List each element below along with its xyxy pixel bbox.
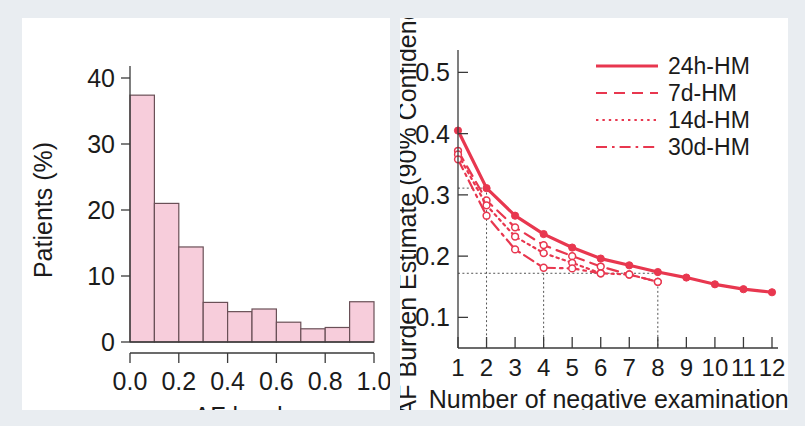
line-chart-x-tick-labels: 123456789101112 — [451, 354, 785, 381]
line-chart-x-tick-label: 11 — [731, 354, 756, 381]
figure-root: 0.00.20.40.60.81.0 010203040 AF burden P… — [0, 0, 805, 426]
histogram-bar — [228, 312, 252, 342]
series-marker-14d-hm — [654, 278, 661, 285]
histogram-bar — [325, 327, 349, 342]
histogram-x-tick-labels: 0.00.20.40.60.81.0 — [113, 367, 390, 395]
series-marker-14d-hm — [540, 250, 547, 257]
histogram-bar — [350, 302, 374, 342]
histogram-bar — [252, 309, 276, 342]
histogram-x-tick-label: 0.2 — [161, 367, 196, 395]
histogram-y-tick-label: 30 — [87, 130, 115, 158]
line-chart-x-tick-label: 2 — [480, 354, 493, 381]
histogram-y-axis-label: Patients (%) — [29, 142, 57, 278]
chart-legend: 24h-HM7d-HM14d-HM30d-HM — [596, 53, 750, 160]
series-marker-30d-hm — [540, 264, 547, 271]
series-marker-24h-hm — [768, 289, 775, 296]
histogram-x-axis-label: AF burden — [194, 402, 311, 410]
legend-label-7d-hm: 7d-HM — [668, 80, 737, 106]
histogram-bar — [203, 302, 227, 342]
legend-label-30d-hm: 30d-HM — [668, 134, 750, 160]
series-marker-30d-hm — [569, 265, 576, 272]
histogram-x-tick-label: 0.8 — [308, 367, 343, 395]
histogram-x-tick-label: 0.6 — [259, 367, 294, 395]
line-chart-panel: 123456789101112 0.10.20.30.40.5 24h-HM7d… — [400, 18, 788, 410]
series-marker-30d-hm — [597, 270, 604, 277]
histogram-svg: 0.00.20.40.60.81.0 010203040 AF burden P… — [22, 18, 390, 410]
legend-label-14d-hm: 14d-HM — [668, 107, 750, 133]
series-marker-24h-hm — [711, 281, 718, 288]
series-marker-14d-hm — [626, 271, 633, 278]
histogram-panel: 0.00.20.40.60.81.0 010203040 AF burden P… — [22, 18, 390, 410]
series-marker-7d-hm — [569, 253, 576, 260]
histogram-bars — [130, 95, 374, 342]
series-marker-24h-hm — [683, 274, 690, 281]
line-chart-x-axis-label: Number of negative examinations — [429, 385, 788, 410]
histogram-x-tick-label: 0.4 — [210, 367, 245, 395]
histogram-y-tick-label: 40 — [87, 64, 115, 92]
line-chart-y-axis-label: AF Burden Estimate (90% Confidence) — [400, 18, 421, 410]
histogram-bar — [130, 95, 154, 342]
line-chart-x-tick-label: 4 — [537, 354, 550, 381]
histogram-x-tick-label: 1.0 — [357, 367, 390, 395]
line-chart-x-tick-label: 5 — [566, 354, 579, 381]
series-marker-30d-hm — [483, 212, 490, 219]
line-chart-x-tick-label: 1 — [451, 354, 464, 381]
line-chart-x-tick-label: 3 — [508, 354, 521, 381]
series-marker-24h-hm — [540, 230, 547, 237]
line-chart-x-tick-label: 10 — [702, 354, 729, 381]
histogram-bar — [154, 203, 178, 342]
series-marker-14d-hm — [512, 233, 519, 240]
series-marker-24h-hm — [511, 212, 518, 219]
line-chart-x-tick-label: 6 — [594, 354, 607, 381]
histogram-bar — [301, 329, 325, 342]
line-chart-x-tick-label: 9 — [680, 354, 693, 381]
histogram-y-tick-labels: 010203040 — [87, 64, 115, 356]
series-marker-7d-hm — [540, 242, 547, 249]
line-chart-x-tick-label: 12 — [759, 354, 786, 381]
series-marker-7d-hm — [597, 263, 604, 270]
histogram-bar — [276, 322, 300, 342]
series-marker-24h-hm — [483, 185, 490, 192]
line-chart-x-tick-label: 8 — [651, 354, 664, 381]
histogram-y-tick-label: 0 — [101, 328, 115, 356]
histogram-bar — [179, 247, 203, 342]
series-marker-24h-hm — [654, 268, 661, 275]
histogram-y-tick-label: 20 — [87, 196, 115, 224]
series-marker-30d-hm — [512, 246, 519, 253]
legend-label-24h-hm: 24h-HM — [668, 53, 750, 79]
series-marker-24h-hm — [626, 262, 633, 269]
series-marker-14d-hm — [483, 202, 490, 209]
histogram-y-tick-label: 10 — [87, 262, 115, 290]
histogram-x-tick-label: 0.0 — [113, 367, 148, 395]
line-chart-svg: 123456789101112 0.10.20.30.40.5 24h-HM7d… — [400, 18, 788, 410]
line-chart-x-tick-label: 7 — [623, 354, 636, 381]
series-marker-24h-hm — [569, 244, 576, 251]
series-marker-24h-hm — [740, 286, 747, 293]
series-marker-24h-hm — [597, 255, 604, 262]
series-marker-7d-hm — [512, 224, 519, 231]
